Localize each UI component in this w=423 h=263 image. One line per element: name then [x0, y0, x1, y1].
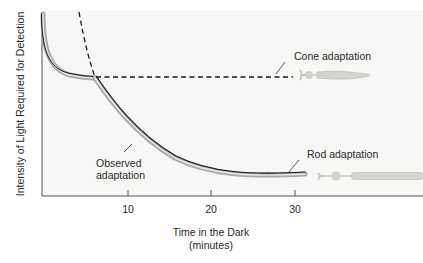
x-axis-label: Time in the Dark (minutes)	[173, 226, 250, 252]
y-axis-label: Intensity of Light Required for Detectio…	[14, 12, 26, 196]
cone-adaptation-label: Cone adaptation	[294, 50, 371, 62]
chart-canvas	[0, 0, 423, 263]
observed-adaptation-label-line2: adaptation	[96, 169, 145, 181]
rod-adaptation-label: Rod adaptation	[307, 148, 378, 160]
observed-adaptation-label-line1: Observed	[96, 157, 142, 169]
x-tick-label-10: 10	[122, 203, 134, 215]
x-axis-label-unit: (minutes)	[173, 239, 250, 252]
rod-cell-icon	[318, 172, 423, 180]
x-tick-label-20: 20	[205, 203, 217, 215]
x-axis-label-title: Time in the Dark	[173, 226, 250, 239]
x-tick-label-30: 30	[289, 203, 301, 215]
